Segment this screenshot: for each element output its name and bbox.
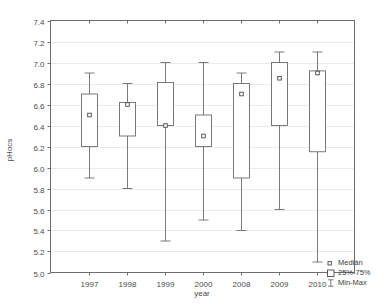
y-tick-label: 6.2 xyxy=(33,144,45,153)
iqr-box xyxy=(158,82,174,125)
x-tick-label: 1998 xyxy=(119,280,137,289)
median-marker xyxy=(126,103,130,107)
x-tick-label: 2008 xyxy=(233,280,251,289)
median-marker xyxy=(202,134,206,138)
y-tick-label: 6.0 xyxy=(33,165,45,174)
x-tick-label: 2009 xyxy=(271,280,289,289)
y-tick-label: 5.4 xyxy=(33,227,45,236)
x-tick-label: 1997 xyxy=(81,280,99,289)
iqr-box xyxy=(272,63,288,126)
y-tick-label: 7.0 xyxy=(33,60,45,69)
y-tick-label: 5.2 xyxy=(33,248,45,257)
median-marker xyxy=(278,76,282,80)
median-marker xyxy=(164,124,168,128)
legend-label-median: Medián xyxy=(338,258,363,267)
y-tick-label: 7.4 xyxy=(33,18,45,27)
plot-canvas: 5.05.25.45.65.86.06.26.46.66.87.07.27.4 … xyxy=(0,0,386,304)
iqr-box xyxy=(82,94,98,147)
box-plot-chart: 5.05.25.45.65.86.06.26.46.66.87.07.27.4 … xyxy=(0,0,386,304)
median-marker xyxy=(316,71,320,75)
y-tick-label: 6.4 xyxy=(33,123,45,132)
y-tick-label: 7.2 xyxy=(33,39,45,48)
legend-item-iqr: 25%-75% xyxy=(328,268,371,277)
x-tick-label: 2000 xyxy=(195,280,213,289)
chart-background xyxy=(0,0,386,304)
median-legend-icon xyxy=(328,262,331,265)
y-tick-label: 5.6 xyxy=(33,207,45,216)
x-tick-label: 2010 xyxy=(309,280,327,289)
median-marker xyxy=(240,92,244,96)
iqr-box xyxy=(120,102,136,136)
iqr-box xyxy=(234,84,250,179)
legend-label-iqr: 25%-75% xyxy=(338,268,371,277)
y-tick-label: 6.6 xyxy=(33,102,45,111)
iqr-box xyxy=(310,71,326,152)
median-marker xyxy=(88,113,92,117)
y-tick-label: 6.8 xyxy=(33,81,45,90)
x-tick-label: 1999 xyxy=(157,280,175,289)
x-axis-title: year xyxy=(194,289,210,298)
y-tick-label: 5.8 xyxy=(33,186,45,195)
iqr-legend-icon xyxy=(328,270,335,277)
y-axis-title: pHocs xyxy=(5,139,14,162)
legend-label-range: Min-Max xyxy=(338,278,367,287)
iqr-box xyxy=(196,115,212,147)
y-tick-label: 5.0 xyxy=(33,270,45,279)
